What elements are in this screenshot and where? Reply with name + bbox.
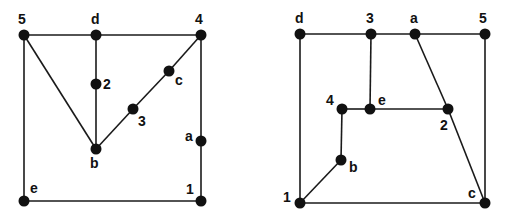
left-graph-edges: [24, 35, 201, 201]
node-label: b: [90, 155, 99, 171]
node-label: 3: [138, 113, 146, 129]
node-b: [91, 144, 102, 155]
edge-5-b: [24, 35, 96, 149]
node-label: d: [91, 11, 100, 27]
node-e: [19, 196, 30, 207]
node-d: [91, 30, 102, 41]
node-label: 4: [195, 11, 203, 27]
right-graph: d3a54e2b1c: [283, 10, 491, 209]
node-label: d: [295, 10, 304, 26]
node-1: [196, 196, 207, 207]
node-label: 5: [18, 11, 26, 27]
left-graph: 5d42c3bae1: [18, 11, 207, 207]
node-1: [295, 198, 306, 209]
node-label: 4: [326, 92, 334, 108]
right-graph-labels: d3a54e2b1c: [283, 10, 487, 205]
node-a: [410, 29, 421, 40]
right-graph-edges: [300, 34, 485, 203]
node-label: 2: [103, 76, 111, 92]
node-a: [196, 136, 207, 147]
node-label: b: [349, 159, 358, 175]
graph-diagram-canvas: 5d42c3bae1 d3a54e2b1c: [0, 0, 510, 221]
node-4: [337, 104, 348, 115]
node-5: [480, 29, 491, 40]
left-graph-labels: 5d42c3bae1: [18, 11, 203, 197]
edge-b-1: [300, 160, 341, 203]
node-label: 2: [440, 117, 448, 133]
node-label: a: [410, 10, 418, 26]
node-5: [19, 30, 30, 41]
edge-2-c: [448, 109, 485, 203]
node-c: [164, 66, 175, 77]
node-label: c: [175, 72, 183, 88]
node-3: [128, 104, 139, 115]
node-label: e: [30, 180, 38, 196]
node-3: [366, 29, 377, 40]
node-2: [443, 104, 454, 115]
edge-a-2: [415, 34, 448, 109]
node-d: [295, 29, 306, 40]
node-4: [196, 30, 207, 41]
node-label: c: [468, 185, 476, 201]
node-2: [91, 79, 102, 90]
edge-4-b: [341, 109, 342, 160]
node-label: 3: [366, 10, 374, 26]
node-label: e: [378, 92, 386, 108]
left-graph-nodes: [19, 30, 207, 207]
node-label: 5: [479, 10, 487, 26]
edge-b-3: [96, 109, 133, 149]
edge-c-4: [169, 35, 201, 71]
right-graph-nodes: [295, 29, 491, 209]
node-b: [336, 155, 347, 166]
node-e: [365, 104, 376, 115]
node-c: [480, 198, 491, 209]
node-label: 1: [186, 181, 194, 197]
node-label: 1: [283, 189, 291, 205]
edge-3-c: [133, 71, 169, 109]
edge-3-e: [370, 34, 371, 109]
node-label: a: [185, 128, 193, 144]
